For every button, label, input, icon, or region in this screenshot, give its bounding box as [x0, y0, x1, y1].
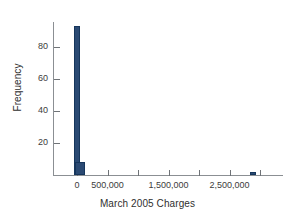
- histogram-chart: 20406080 0500,0001,500,0002,500,000 Freq…: [0, 0, 295, 221]
- x-tick-2500000: [230, 170, 231, 176]
- x-tick-label-1500000: 1,500,000: [134, 180, 204, 190]
- y-tick-40: [54, 111, 60, 112]
- x-tick-3000000: [260, 170, 261, 176]
- y-tick-60: [54, 79, 60, 80]
- bar-bin-0: [74, 26, 80, 175]
- y-tick-80: [54, 47, 60, 48]
- x-tick-500000: [108, 170, 109, 176]
- x-tick-1500000: [169, 170, 170, 176]
- x-tick-1000000: [138, 170, 139, 176]
- x-tick-label-2500000: 2,500,000: [195, 180, 265, 190]
- bar-bin-outlier: [250, 172, 256, 175]
- y-axis-line: [53, 22, 54, 176]
- x-tick-2000000: [199, 170, 200, 176]
- bar-bin-1: [75, 162, 85, 175]
- x-axis-title: March 2005 Charges: [0, 198, 295, 209]
- y-tick-20: [54, 143, 60, 144]
- y-axis-title: Frequency: [12, 33, 23, 143]
- x-tick-label-500000: 500,000: [73, 180, 143, 190]
